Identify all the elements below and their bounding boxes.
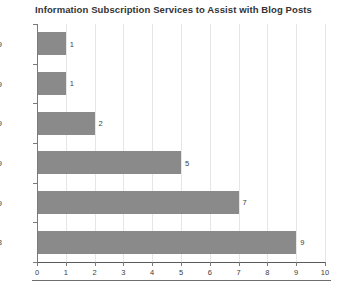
y-tick-mark (33, 64, 37, 65)
x-tick-label-0: 0 (27, 268, 47, 277)
x-tick-mark-8 (267, 262, 268, 266)
x-tick-label-4: 4 (142, 268, 162, 277)
bar-value-label: 1 (70, 39, 74, 48)
chart-title: Information Subscription Services to Ass… (0, 4, 347, 15)
x-tick-label-10: 10 (315, 268, 335, 277)
gridline-x-3 (123, 24, 124, 262)
bar-chart: Information Subscription Services to Ass… (0, 0, 347, 289)
x-tick-mark-2 (95, 262, 96, 266)
y-tick-mark (33, 262, 37, 263)
bar (37, 231, 296, 254)
gridline-x-9 (296, 24, 297, 262)
bar-row: 2 (37, 112, 325, 135)
x-tick-mark-4 (152, 262, 153, 266)
gridline-x-8 (267, 24, 268, 262)
x-tick-label-7: 7 (229, 268, 249, 277)
x-tick-mark-1 (66, 262, 67, 266)
gridline-x-10 (325, 24, 326, 262)
y-tick-mark (33, 183, 37, 184)
bar (37, 112, 95, 135)
x-tick-mark-3 (123, 262, 124, 266)
bar-value-label: 5 (185, 158, 189, 167)
x-tick-label-8: 8 (257, 268, 277, 277)
y-tick-label: 19-29 (0, 158, 2, 167)
plot-area: 112579 (37, 24, 325, 262)
bar (37, 151, 181, 174)
gridline-x-1 (66, 24, 67, 262)
x-tick-label-3: 3 (113, 268, 133, 277)
y-tick-label: 30-39 (0, 79, 2, 88)
gridline-x-2 (95, 24, 96, 262)
y-tick-mark (33, 222, 37, 223)
bar-value-label: 7 (243, 198, 247, 207)
bar (37, 32, 66, 55)
x-tick-label-2: 2 (85, 268, 105, 277)
x-tick-mark-6 (210, 262, 211, 266)
bottom-divider (32, 280, 331, 281)
x-tick-mark-9 (296, 262, 297, 266)
x-tick-mark-7 (239, 262, 240, 266)
x-tick-label-6: 6 (200, 268, 220, 277)
bar-row: 1 (37, 72, 325, 95)
x-tick-label-9: 9 (286, 268, 306, 277)
y-tick-mark (33, 143, 37, 144)
bar-row: 1 (37, 32, 325, 55)
x-tick-label-1: 1 (56, 268, 76, 277)
y-tick-label: 13-18 (0, 238, 2, 247)
gridline-x-5 (181, 24, 182, 262)
x-tick-label-5: 5 (171, 268, 191, 277)
x-tick-mark-5 (181, 262, 182, 266)
bar-row: 7 (37, 191, 325, 214)
bar-value-label: 9 (300, 238, 304, 247)
bar-value-label: 1 (70, 79, 74, 88)
gridline-x-7 (239, 24, 240, 262)
bar (37, 72, 66, 95)
x-tick-mark-10 (325, 262, 326, 266)
bar-row: 9 (37, 231, 325, 254)
x-tick-mark-0 (37, 262, 38, 266)
y-tick-label: 40-49 (0, 39, 2, 48)
gridline-x-6 (210, 24, 211, 262)
bar (37, 191, 239, 214)
bar-row: 5 (37, 151, 325, 174)
y-axis-line (37, 24, 38, 263)
gridline-x-4 (152, 24, 153, 262)
y-tick-mark (33, 24, 37, 25)
y-tick-label: 19-29 (0, 198, 2, 207)
bar-value-label: 2 (99, 119, 103, 128)
y-tick-mark (33, 103, 37, 104)
y-tick-label: 19-29 (0, 119, 2, 128)
